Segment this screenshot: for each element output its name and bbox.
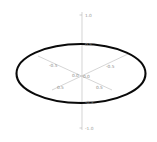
data-curve-group (17, 44, 146, 103)
z-axis-group (80, 12, 83, 130)
z-tick-label-neg1: -1.0 (85, 126, 94, 131)
y-tick-label-0p5: 0.5 (96, 85, 103, 90)
z-tick-label-neg0p5: -0.5 (85, 100, 94, 105)
x-tick-label-origin: 0.0 (72, 73, 79, 78)
x-tick-label-0p5: 0.5 (57, 85, 64, 90)
z-tick-label-1: 1.0 (85, 13, 92, 18)
plot-canvas: 1.0 0.5 -0.5 -1.0 -0.5 0.0 0.5 -0.5 0.0 … (0, 0, 157, 142)
unit-circle-curve (17, 44, 146, 103)
y-tick-label-origin: 0.0 (83, 74, 90, 79)
y-tick-label-neg0p5: -0.5 (106, 64, 115, 69)
x-tick-label-neg0p5: -0.5 (49, 63, 58, 68)
z-tick-label-0p5: 0.5 (85, 42, 92, 47)
plot-figure: 1.0 0.5 -0.5 -1.0 -0.5 0.0 0.5 -0.5 0.0 … (0, 0, 157, 142)
diagonal-axes-group (38, 54, 128, 90)
